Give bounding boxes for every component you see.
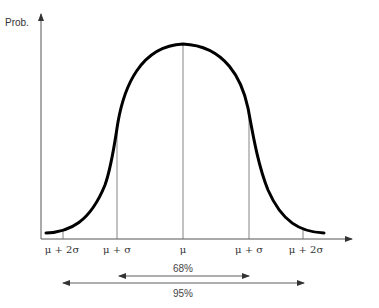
range-95-label: 95% <box>173 288 193 299</box>
x-tick-label-1: μ + 2σ <box>45 244 80 255</box>
x-tick-label-2: μ + σ <box>103 244 131 255</box>
x-tick-label-4: μ + σ <box>235 244 263 255</box>
y-axis-label: Prob. <box>5 17 29 28</box>
bell-curve <box>46 44 324 233</box>
x-tick-label-mean: μ <box>180 244 187 255</box>
x-tick-label-5: μ + 2σ <box>289 244 324 255</box>
normal-distribution-diagram: Prob. μ + 2σ μ + σ μ μ + σ μ + 2σ 68% 95… <box>0 0 379 308</box>
range-68-label: 68% <box>173 263 193 274</box>
